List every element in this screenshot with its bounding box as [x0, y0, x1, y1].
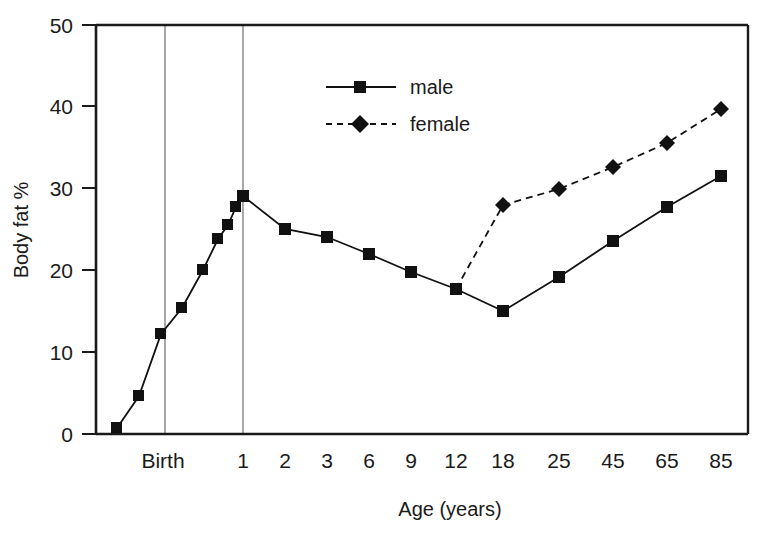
y-tick-label-30: 30	[50, 177, 73, 200]
x-tick-label-12: 12	[444, 449, 467, 472]
x-tick-label-birth: Birth	[141, 449, 184, 472]
male-point-age-6	[363, 248, 375, 260]
legend-label-female: female	[410, 113, 470, 135]
male-point-prebirth-1	[111, 422, 122, 433]
male-point-postbirth-3	[212, 233, 223, 244]
male-point-age-3	[321, 231, 333, 243]
x-tick-label-45: 45	[601, 449, 624, 472]
male-point-postbirth-4	[222, 219, 233, 230]
male-point-age-12	[450, 283, 462, 295]
x-tick-label-2: 2	[279, 449, 291, 472]
male-point-age-2	[279, 223, 291, 235]
y-tick-marks	[82, 25, 96, 434]
male-point-age-65	[661, 201, 673, 213]
x-tick-label-9: 9	[405, 449, 417, 472]
y-tick-label-50: 50	[50, 14, 73, 37]
male-point-postbirth-2	[197, 264, 208, 275]
y-tick-label-0: 0	[61, 423, 73, 446]
x-axis-title: Age (years)	[398, 498, 501, 520]
male-point-age-45	[607, 235, 619, 247]
chart-figure: 50 40 30 20 10 0 Birth 1 2 3 6 9 12 18 2…	[0, 0, 775, 534]
x-tick-label-65: 65	[655, 449, 678, 472]
x-tick-label-3: 3	[321, 449, 333, 472]
male-point-prebirth-2	[133, 390, 144, 401]
legend-male-square-marker-icon	[354, 81, 366, 93]
x-tick-label-25: 25	[547, 449, 570, 472]
x-tick-label-1: 1	[237, 449, 249, 472]
male-point-postbirth-1	[176, 302, 187, 313]
male-point-postbirth-5	[230, 201, 241, 212]
male-point-age-25	[553, 271, 565, 283]
male-point-age-85	[715, 170, 727, 182]
male-point-age-9	[405, 266, 417, 278]
male-point-birth	[155, 328, 166, 339]
x-tick-labels: Birth 1 2 3 6 9 12 18 25 45 65 85	[141, 449, 732, 472]
x-tick-label-85: 85	[709, 449, 732, 472]
body-fat-line-chart: 50 40 30 20 10 0 Birth 1 2 3 6 9 12 18 2…	[0, 0, 775, 534]
y-axis-title: Body fat %	[10, 181, 32, 278]
y-tick-labels: 50 40 30 20 10 0	[50, 14, 73, 446]
y-tick-label-40: 40	[50, 95, 73, 118]
x-tick-label-18: 18	[491, 449, 514, 472]
y-tick-label-20: 20	[50, 259, 73, 282]
male-point-age-1	[237, 190, 249, 202]
male-point-age-18	[497, 305, 509, 317]
legend-label-male: male	[410, 76, 453, 98]
y-tick-label-10: 10	[50, 341, 73, 364]
x-tick-label-6: 6	[363, 449, 375, 472]
